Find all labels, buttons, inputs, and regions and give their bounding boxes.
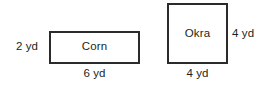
okra-width-label: 4 yd (167, 68, 228, 80)
garden-plot-diagram: Corn 2 yd 6 yd Okra 4 yd 4 yd (0, 0, 271, 91)
corn-width-label: 6 yd (49, 68, 140, 80)
corn-height-label: 2 yd (9, 41, 45, 53)
okra-label: Okra (167, 28, 228, 40)
okra-height-label: 4 yd (232, 28, 266, 40)
corn-label: Corn (49, 41, 140, 53)
